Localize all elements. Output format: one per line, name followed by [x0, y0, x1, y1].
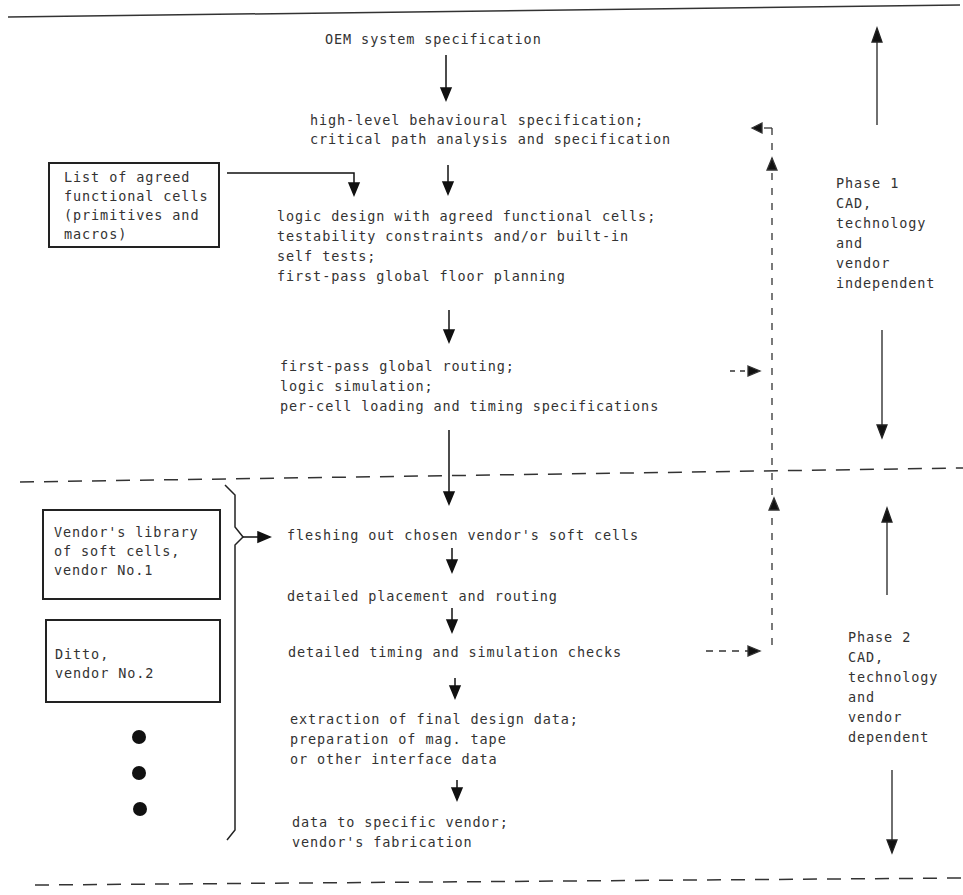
- step-text: high-level behavioural specification;: [310, 111, 644, 130]
- ellipsis-dot: [132, 730, 146, 744]
- step-text: fleshing out chosen vendor's soft cells: [287, 526, 639, 545]
- step-text: self tests;: [277, 247, 376, 266]
- phase-label-text: dependent: [848, 728, 929, 747]
- vendor2-box: Ditto, vendor No.2: [45, 619, 221, 703]
- phase-label-text: and: [836, 234, 863, 253]
- step-text: detailed placement and routing: [287, 587, 558, 606]
- step-text: OEM system specification: [325, 30, 542, 49]
- phase-label-text: CAD,: [836, 194, 872, 213]
- phase-label-text: Phase 2: [848, 628, 911, 647]
- agreed-cells-box: List of agreed functional cells (primiti…: [48, 162, 220, 248]
- box-text: Ditto,: [55, 645, 219, 664]
- phase-label-text: technology: [848, 668, 938, 687]
- step-text: first-pass global routing;: [280, 357, 515, 376]
- step-text: preparation of mag. tape: [290, 730, 507, 749]
- vendor-bracket: [225, 485, 243, 840]
- phase-divider: [20, 468, 963, 482]
- step-text: or other interface data: [290, 750, 498, 769]
- phase-label-text: and: [848, 688, 875, 707]
- phase-label-text: vendor: [848, 708, 902, 727]
- step-text: logic design with agreed functional cell…: [277, 207, 656, 226]
- ellipsis-dot: [132, 766, 146, 780]
- step-text: vendor's fabrication: [292, 833, 473, 852]
- box-text: (primitives and: [64, 206, 218, 225]
- phase-label-text: CAD,: [848, 648, 884, 667]
- top-rule: [8, 5, 960, 17]
- step-text: critical path analysis and specification: [310, 130, 671, 149]
- box-text: Vendor's library: [54, 523, 219, 542]
- step-text: detailed timing and simulation checks: [288, 643, 622, 662]
- box-text: functional cells: [64, 187, 218, 206]
- ellipsis-dot: [133, 802, 147, 816]
- box-text: List of agreed: [64, 168, 218, 187]
- phase-label-text: vendor: [836, 254, 890, 273]
- phase-label-text: Phase 1: [836, 174, 899, 193]
- box-text: vendor No.2: [55, 664, 219, 683]
- phase-label-text: technology: [836, 214, 926, 233]
- box-text: macros): [64, 225, 218, 244]
- box-text: of soft cells,: [54, 542, 219, 561]
- phase-label-text: independent: [836, 274, 935, 293]
- step-text: first-pass global floor planning: [277, 267, 566, 286]
- step-text: extraction of final design data;: [290, 710, 579, 729]
- bottom-divider: [35, 878, 963, 885]
- vendor1-box: Vendor's library of soft cells, vendor N…: [42, 509, 221, 600]
- step-text: testability constraints and/or built-in: [277, 227, 629, 246]
- step-text: logic simulation;: [280, 377, 433, 396]
- box-text: vendor No.1: [54, 561, 219, 580]
- step-text: per-cell loading and timing specificatio…: [280, 397, 659, 416]
- step-text: data to specific vendor;: [292, 813, 509, 832]
